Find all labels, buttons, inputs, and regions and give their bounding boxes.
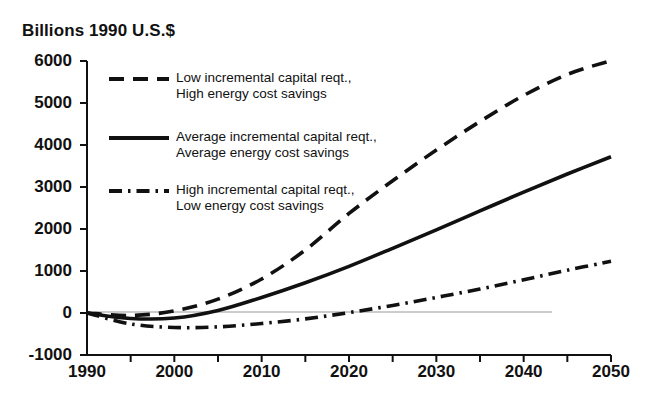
y-tick-label: 6000	[2, 51, 72, 71]
x-tick-label: 2040	[484, 362, 564, 382]
legend-label-line1: Low incremental capital reqt.,	[176, 70, 352, 86]
x-tick-label: 2020	[309, 362, 389, 382]
y-tick-label: 5000	[2, 93, 72, 113]
legend-label-line2: Average energy cost savings	[176, 145, 377, 161]
legend-label: Average incremental capital reqt.,Averag…	[176, 129, 377, 160]
y-tick-label: 0	[2, 303, 72, 323]
x-tick-label: 2000	[134, 362, 214, 382]
legend-label-line2: High energy cost savings	[176, 86, 352, 102]
legend-label-line2: Low energy cost savings	[176, 198, 355, 214]
legend-swatch-dashdot-icon	[108, 184, 170, 198]
legend-label: High incremental capital reqt.,Low energ…	[176, 182, 355, 213]
x-tick-label: 2010	[222, 362, 302, 382]
y-tick-label: 2000	[2, 219, 72, 239]
legend-label-line1: High incremental capital reqt.,	[176, 182, 355, 198]
legend-swatch-solid-icon	[108, 131, 170, 145]
legend-label-line1: Average incremental capital reqt.,	[176, 129, 377, 145]
y-tick-label: 1000	[2, 261, 72, 281]
y-tick-marks	[80, 61, 87, 355]
x-tick-marks	[131, 355, 611, 362]
y-tick-label: 3000	[2, 177, 72, 197]
x-tick-label: 1990	[47, 362, 127, 382]
x-tick-label: 2050	[571, 362, 651, 382]
y-tick-label: 4000	[2, 135, 72, 155]
x-tick-label: 2030	[396, 362, 476, 382]
chart-figure: Billions 1990 U.S.$ -1000010002000300040…	[0, 0, 657, 410]
legend-label: Low incremental capital reqt.,High energ…	[176, 70, 352, 101]
legend-swatch-dashed-icon	[108, 72, 170, 86]
